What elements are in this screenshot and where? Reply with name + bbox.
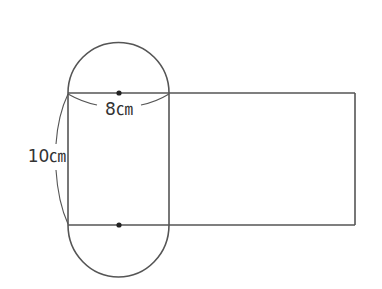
bottom-circle-arc	[68, 225, 169, 277]
bottom-center-dot	[116, 222, 121, 227]
cylinder-net-diagram: 8㎝ 10㎝	[0, 0, 382, 289]
diameter-brace-left	[68, 94, 97, 105]
diameter-label: 8㎝	[105, 99, 133, 119]
height-label: 10㎝	[28, 146, 67, 166]
height-brace-bottom	[56, 170, 68, 224]
diameter-brace-right	[141, 94, 169, 105]
top-circle-arc	[68, 43, 169, 93]
height-brace-top	[56, 94, 68, 144]
top-center-dot	[116, 90, 121, 95]
